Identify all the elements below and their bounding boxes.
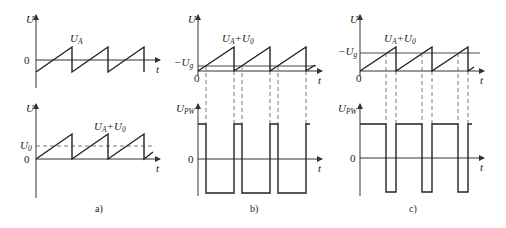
zero-label: 0	[188, 153, 194, 165]
x-axis-label: t	[480, 74, 484, 86]
zero-label: 0	[194, 72, 200, 84]
y-axis-label: U	[188, 13, 197, 25]
panel-b-top-plot: U t 0 −Ug UA+U0	[174, 13, 322, 86]
caption-b: b)	[250, 203, 258, 215]
y-axis-label: U	[26, 13, 35, 25]
y-axis-label: U	[350, 13, 359, 25]
zero-label: 0	[350, 152, 356, 164]
x-axis-label: t	[156, 63, 160, 75]
signal-label: UA+U0	[384, 32, 416, 46]
zero-label: 0	[356, 72, 362, 84]
u0-label: U0	[20, 139, 32, 153]
panel-a: U t 0 UA U t 0 U0 UA+U0 a)	[20, 13, 160, 215]
x-axis-label: t	[156, 162, 160, 174]
signal-label: UA+U0	[94, 120, 126, 134]
x-axis-label: t	[318, 162, 322, 174]
panel-b-projection-lines	[206, 66, 306, 124]
x-axis-label: t	[480, 161, 484, 173]
panel-b-bottom-plot: UPW t 0	[176, 102, 322, 196]
panel-a-top-plot: U t 0 UA	[24, 13, 160, 88]
y-axis-label: U	[26, 102, 35, 114]
panel-c: U t 0 −Ug UA+U0 UPW t 0 c)	[338, 13, 484, 215]
pwm-waveform-diagram: U t 0 UA U t 0 U0 UA+U0 a) U t 0	[0, 0, 506, 228]
zero-label: 0	[24, 54, 30, 66]
zero-label: 0	[24, 153, 30, 165]
signal-label: UA+U0	[222, 32, 254, 46]
panel-c-bottom-plot: UPW t 0	[338, 102, 484, 196]
caption-a: a)	[95, 203, 103, 215]
y-axis-label: UPW	[338, 102, 358, 116]
x-axis-label: t	[318, 74, 322, 86]
sawtooth-ua-plus-u0	[198, 47, 315, 71]
y-axis-label: UPW	[176, 102, 196, 116]
panel-c-projection-lines	[386, 53, 468, 124]
panel-c-top-plot: U t 0 −Ug UA+U0	[338, 13, 484, 86]
ug-label: −Ug	[338, 45, 357, 59]
panel-b: U t 0 −Ug UA+U0 UPW t 0 b)	[174, 13, 322, 215]
signal-label: UA	[70, 32, 83, 46]
panel-a-bottom-plot: U t 0 U0 UA+U0	[20, 102, 160, 198]
sawtooth-ua-plus-u0	[36, 134, 153, 159]
ug-label: −Ug	[174, 56, 193, 70]
caption-c: c)	[409, 203, 417, 215]
sawtooth-ua-plus-u0	[360, 47, 474, 71]
